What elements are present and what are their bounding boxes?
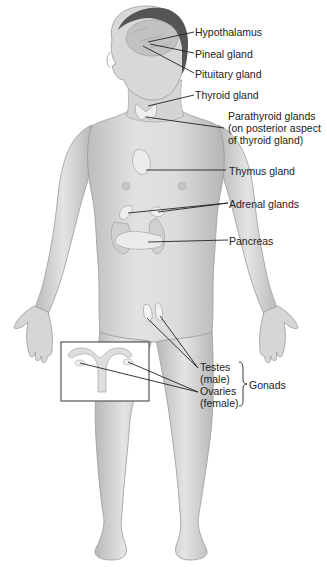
label-testes-male: (male) [200,373,230,385]
label-parathyroid-note-2: of thyroid gland) [228,134,303,146]
label-ovaries-female: (female) [200,397,239,409]
label-testes: Testes [200,361,230,373]
label-parathyroid-glands: Parathyroid glands [228,110,316,122]
label-ovaries: Ovaries [200,385,236,397]
left-arm [14,125,92,363]
label-thymus-gland: Thymus gland [229,165,295,177]
label-pituitary-gland: Pituitary gland [195,68,262,80]
label-pineal-gland: Pineal gland [195,48,253,60]
ovaries-inset [61,342,149,401]
label-adrenal-glands: Adrenal glands [229,198,299,210]
label-thyroid-gland: Thyroid gland [195,89,259,101]
label-parathyroid-note-1: (on posterior aspect [228,122,321,134]
gonads-brace [239,362,247,406]
head [107,6,188,100]
label-gonads: Gonads [249,379,286,391]
body-illustration [0,0,327,567]
label-hypothalamus: Hypothalamus [195,26,262,38]
label-pancreas: Pancreas [229,235,273,247]
